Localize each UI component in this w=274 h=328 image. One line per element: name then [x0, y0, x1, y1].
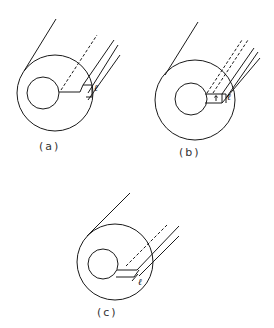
panel-c-cylinder-edge	[87, 193, 130, 236]
panel-a-slot-edge-1	[83, 40, 114, 85]
panel-a-inner-circle	[27, 77, 59, 109]
panel-b-cylinder-edge	[165, 22, 198, 75]
panel-a-cylinder-edge	[24, 19, 56, 71]
panel-b-slot-label: ℓ	[227, 92, 231, 102]
panel-a-outer-circle	[17, 55, 93, 131]
panel-a-slot-label: ℓ	[94, 83, 98, 93]
panel-b-drawing	[155, 22, 260, 140]
panel-c-slot-edge-2	[139, 236, 179, 276]
panel-b-inner-circle	[175, 83, 207, 115]
panel-a-drawing	[17, 19, 120, 131]
panel-c-caption: (c)	[97, 306, 118, 319]
panel-c-slot-edge-1	[137, 226, 179, 270]
diagram-canvas	[0, 0, 274, 328]
panel-b-caption: (b)	[179, 146, 201, 159]
panel-c-inner-circle	[88, 249, 118, 279]
panel-c-drawing	[77, 193, 179, 300]
panel-a-slot-edge-3	[88, 55, 120, 100]
panel-c-slot-label: ℓ	[138, 277, 142, 287]
panel-b-hidden-edge-2	[213, 40, 248, 93]
panel-a-caption: (a)	[39, 140, 60, 153]
